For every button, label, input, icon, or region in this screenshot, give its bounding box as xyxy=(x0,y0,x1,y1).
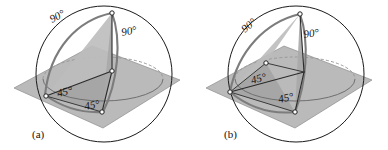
label-arc-angle-right-a: 90° xyxy=(120,23,138,38)
vertex-inner-b xyxy=(264,61,268,65)
panel-a: 90° 90° 45° 45° (a) xyxy=(0,0,194,150)
vertex-base-left-b xyxy=(228,90,232,94)
label-arc-angle-right-b: 90° xyxy=(303,26,321,40)
vertex-base-left-a xyxy=(44,94,48,98)
vertex-center-a xyxy=(110,69,114,73)
spherical-triangle-figure: 90° 90° 45° 45° (a) xyxy=(0,0,388,150)
panel-b: 90° 90° 45° 45° (b) xyxy=(194,0,388,150)
label-arc-angle-left-a: 90° xyxy=(47,7,67,25)
vertex-apex-a xyxy=(110,11,114,15)
vertex-base-bottom-b xyxy=(293,110,297,114)
label-arc-angle-left-b: 90° xyxy=(239,15,259,34)
vertex-base-right-a xyxy=(100,110,104,114)
caption-a: (a) xyxy=(32,128,45,141)
caption-b: (b) xyxy=(224,128,237,141)
vertex-apex-b xyxy=(298,12,302,16)
